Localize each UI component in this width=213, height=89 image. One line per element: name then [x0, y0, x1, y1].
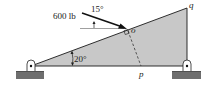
statics-diagram: 600 lb 15° 20° o p q: [0, 0, 213, 89]
point-p-label: p: [138, 69, 144, 79]
force-arrowhead: [118, 24, 127, 30]
force-arrow-shaft: [82, 13, 121, 27]
point-q-label: q: [189, 0, 194, 10]
angle-15-arrowhead: [93, 21, 96, 24]
incline-angle-label: 20°: [74, 54, 87, 64]
right-ground: [172, 72, 201, 79]
point-o-label: o: [131, 25, 136, 35]
left-ground: [16, 72, 44, 79]
force-label: 600 lb: [53, 11, 76, 21]
force-angle-label: 15°: [91, 4, 104, 14]
